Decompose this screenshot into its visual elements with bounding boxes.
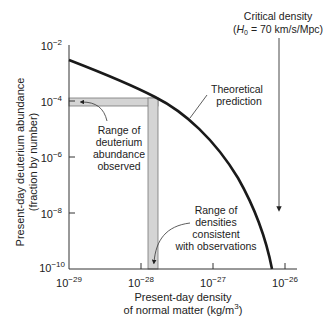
svg-text:10−6: 10−6: [41, 150, 63, 164]
y-ticks: [69, 101, 75, 213]
theoretical-leader-line: [190, 95, 207, 118]
svg-text:(fraction by number): (fraction by number): [27, 113, 39, 211]
svg-text:10−28: 10−28: [128, 275, 154, 289]
svg-text:Present-day deuterium abundanc: Present-day deuterium abundance: [14, 78, 26, 247]
svg-text:(H0 = 70 km/s/Mpc): (H0 = 70 km/s/Mpc): [233, 23, 323, 36]
density-range-band: [148, 98, 158, 269]
svg-text:densities: densities: [195, 216, 236, 228]
critical-density-label: Critical density (H0 = 70 km/s/Mpc): [233, 10, 323, 36]
svg-text:Range of: Range of: [195, 204, 238, 216]
density-range-label: Range of densities consistent with obser…: [174, 204, 256, 252]
svg-text:Range of: Range of: [98, 124, 141, 136]
svg-text:with observations: with observations: [174, 240, 256, 252]
svg-text:consistent: consistent: [192, 228, 239, 240]
svg-text:10−4: 10−4: [41, 94, 63, 108]
svg-text:Present-day density: Present-day density: [134, 291, 232, 303]
svg-text:10−27: 10−27: [200, 275, 226, 289]
svg-text:abundance: abundance: [93, 148, 145, 160]
svg-text:10−29: 10−29: [56, 275, 82, 289]
svg-text:deuterium: deuterium: [96, 136, 143, 148]
svg-text:prediction: prediction: [216, 95, 262, 107]
x-ticks: [141, 263, 285, 269]
deuterium-range-label: Range of deuterium abundance observed: [93, 124, 145, 172]
svg-text:10−26: 10−26: [272, 275, 298, 289]
svg-text:10−8: 10−8: [41, 206, 63, 220]
y-tick-labels: 10−2 10−4 10−6 10−8 10−10: [39, 38, 65, 274]
svg-text:Critical density: Critical density: [244, 10, 313, 22]
svg-text:10−2: 10−2: [41, 38, 63, 52]
svg-text:Theoretical: Theoretical: [211, 83, 263, 95]
svg-text:of normal matter (kg/m3): of normal matter (kg/m3): [124, 302, 243, 316]
svg-text:observed: observed: [97, 160, 140, 172]
y-axis-label: Present-day deuterium abundance (fractio…: [14, 78, 39, 247]
x-tick-labels: 10−29 10−28 10−27 10−26: [56, 275, 298, 289]
svg-text:10−10: 10−10: [39, 260, 65, 274]
chart: 10−2 10−4 10−6 10−8 10−10 10−29 10−28 10…: [0, 0, 324, 324]
theoretical-prediction-label: Theoretical prediction: [211, 83, 263, 107]
x-axis-label: Present-day density of normal matter (kg…: [124, 291, 243, 316]
